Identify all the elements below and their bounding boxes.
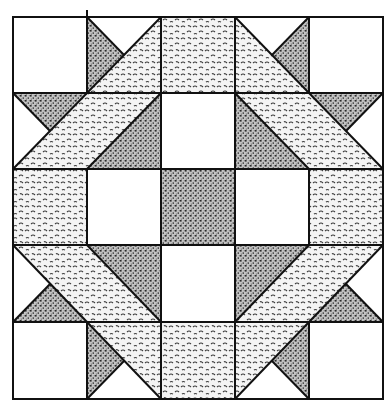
center-square bbox=[161, 169, 235, 245]
right-edge-square bbox=[309, 169, 383, 245]
bottom-edge-square bbox=[161, 322, 235, 399]
quilt-block bbox=[0, 0, 388, 412]
left-edge-square bbox=[13, 169, 87, 245]
top-mid-square bbox=[161, 93, 235, 169]
left-mid-square bbox=[87, 169, 161, 245]
right-mid-square bbox=[235, 169, 309, 245]
top-edge-square bbox=[161, 17, 235, 93]
bottom-mid-square bbox=[161, 245, 235, 322]
